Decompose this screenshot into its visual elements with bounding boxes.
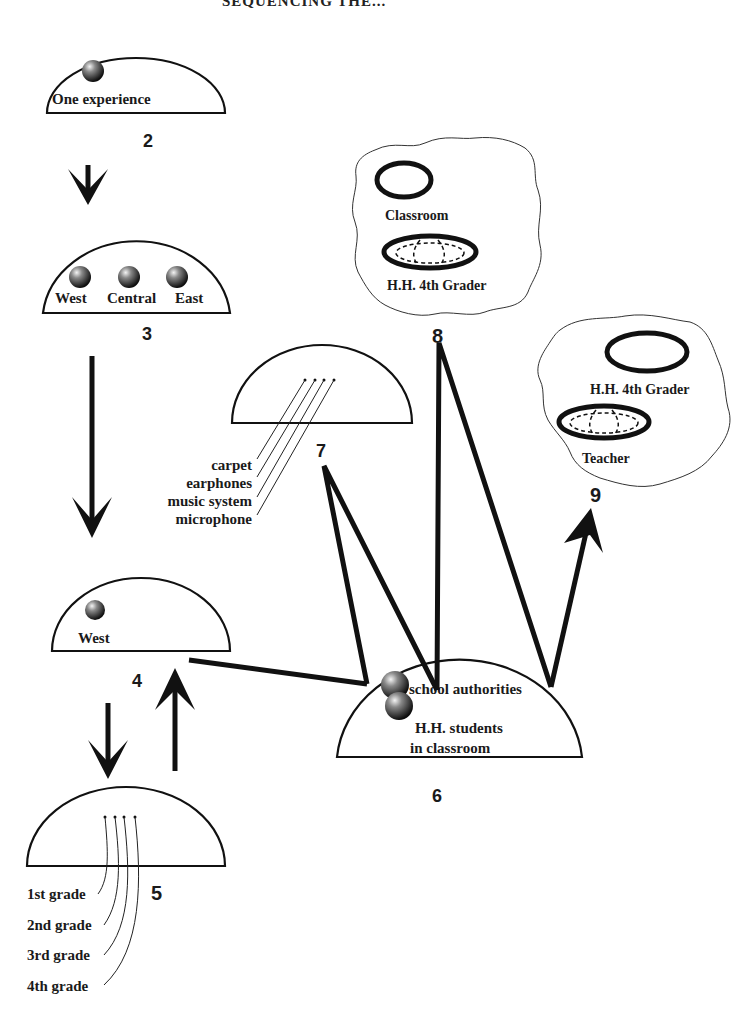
sphere-icon-west [69,266,91,288]
node-9-label-hh-4th-grader: H.H. 4th Grader [590,382,690,397]
node-8-label-hh-4th-grader: H.H. 4th Grader [387,278,487,293]
node-8: Classroom H.H. 4th Grader 8 [352,137,541,347]
cloud-shape-icon [538,315,730,487]
node-5-label-3rd-grade: 3rd grade [27,947,90,963]
node-4-label-west: West [78,630,110,646]
sphere-icon [82,60,104,82]
node-6-label-hh-students: H.H. students [415,720,503,736]
node-7-label-earphones: earphones [186,475,252,491]
node-5-number: 5 [151,882,162,904]
dome-shape [27,787,225,866]
node-6: school authorities H.H. students in clas… [337,660,582,806]
arrow-4-to-5 [88,703,128,779]
node-5-label-1st-grade: 1st grade [27,886,86,902]
arrow-2-to-3 [68,165,108,205]
node-5-label-2nd-grade: 2nd grade [27,917,92,933]
node-3-label-west: West [55,290,87,306]
connector-6-to-7 [324,466,437,690]
node-6-label-school-authorities: school authorities [409,681,522,697]
node-7-number: 7 [316,441,326,461]
connector-4-to-6 [189,660,367,684]
connector-6-to-8 [437,343,551,690]
node-3-label-east: East [175,290,203,306]
node-4-number: 4 [132,671,142,691]
node-3-label-central: Central [107,290,156,306]
node-9-number: 9 [590,484,601,506]
node-9-label-teacher: Teacher [582,451,630,466]
node-7-label-carpet: carpet [211,457,252,473]
node-3: West Central East 3 [43,241,230,344]
arrow-6-to-9 [551,508,603,687]
node-2-label: One experience [52,91,151,107]
page-header: SEQUENCING THE... [222,0,386,9]
arrow-3-to-4 [72,356,112,538]
sequencing-diagram: SEQUENCING THE... One experience 2 West … [0,0,749,1024]
node-6-label-in-classroom: in classroom [410,740,491,756]
sphere-icon-east [166,266,188,288]
node-9: H.H. 4th Grader Teacher 9 [538,315,730,506]
arrow-5-to-4 [155,668,195,771]
node-5: 1st grade 2nd grade 3rd grade 4th grade … [27,787,225,994]
node-2-number: 2 [143,131,153,151]
node-2: One experience 2 [47,58,225,151]
node-7-label-music-system: music system [167,493,252,509]
node-3-number: 3 [142,324,152,344]
node-4: West 4 [52,578,230,691]
node-7: carpet earphones music system microphone… [167,345,412,527]
sphere-icon-central [118,266,140,288]
node-7-label-microphone: microphone [176,511,253,527]
sphere-icon [85,600,105,620]
node-6-number: 6 [432,786,442,806]
node-8-label-classroom: Classroom [385,208,449,223]
node-5-label-4th-grade: 4th grade [27,978,89,994]
